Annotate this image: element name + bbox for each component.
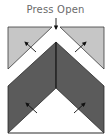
package-diagram — [0, 0, 111, 140]
